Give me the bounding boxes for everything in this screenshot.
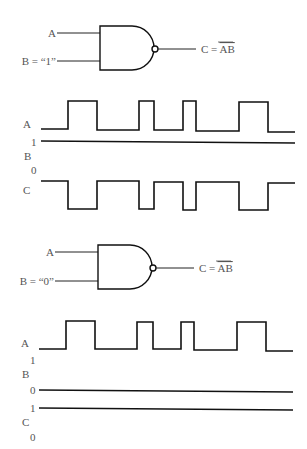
signal-b-waveform (41, 141, 295, 143)
timing-diagram-2: A 1 B 0 1 C 0 (21, 321, 293, 443)
signal-b-high-label: 1 (30, 354, 36, 366)
output-label: C = AB (201, 43, 235, 55)
signal-b-low-label: 0 (30, 384, 36, 396)
input-a-label: A (46, 246, 54, 258)
input-b-label: B = “1” (22, 55, 56, 67)
signal-c-waveform (41, 181, 295, 210)
signal-b-low-label: 0 (31, 164, 37, 176)
nand-gate-body (98, 245, 152, 289)
output-label: C = AB (199, 262, 233, 274)
signal-a-label: A (23, 118, 31, 130)
signal-c-label: C (23, 184, 30, 196)
inversion-bubble (150, 265, 156, 271)
input-b-label: B = “0” (20, 275, 54, 287)
signal-c-waveform (39, 408, 293, 410)
input-a-label: A (48, 27, 56, 39)
nand-timing-diagram: A B = “1” C = AB A 1 B 0 C A B = “0” C =… (0, 0, 307, 449)
signal-b-label: B (22, 368, 29, 380)
nand-gate-body (100, 26, 154, 70)
signal-c-high-label: 1 (30, 402, 36, 414)
signal-b-label: B (24, 150, 31, 162)
signal-c-label: C (22, 416, 29, 428)
signal-b-high-label: 1 (31, 136, 37, 148)
nand-gate-2: A B = “0” C = AB (20, 245, 233, 289)
signal-a-waveform (39, 321, 293, 351)
signal-a-label: A (21, 337, 29, 349)
signal-a-waveform (41, 101, 295, 132)
signal-c-low-label: 0 (30, 431, 36, 443)
nand-gate-1: A B = “1” C = AB (22, 26, 235, 70)
inversion-bubble (152, 46, 158, 52)
signal-b-waveform (39, 390, 293, 392)
timing-diagram-1: A 1 B 0 C (23, 101, 295, 210)
